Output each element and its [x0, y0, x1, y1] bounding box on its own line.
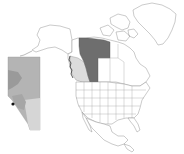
alaska: [32, 25, 72, 54]
location-marker: [11, 102, 14, 105]
florida: [128, 118, 140, 132]
aleutian-islands: [20, 51, 32, 56]
greenland: [133, 3, 176, 45]
province-inset: [8, 57, 40, 130]
central-america: [124, 144, 134, 152]
inset-light-shade: [24, 98, 40, 130]
north-america-locator-map: [0, 0, 184, 154]
united-states: [76, 82, 150, 124]
arctic-islands: [100, 14, 138, 41]
